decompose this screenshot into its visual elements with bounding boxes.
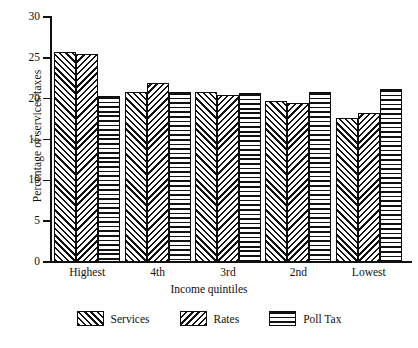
legend-label: Services xyxy=(111,313,150,325)
y-axis-tick-label: 30 xyxy=(8,11,40,23)
legend-swatch xyxy=(77,311,104,326)
legend-label: Poll Tax xyxy=(303,313,341,325)
y-axis-tick xyxy=(43,16,50,18)
bar-group xyxy=(195,17,261,262)
bar xyxy=(195,92,217,262)
y-axis-tick-label: 15 xyxy=(8,134,40,146)
bar xyxy=(358,113,380,262)
y-axis-tick-label: 0 xyxy=(8,256,40,268)
bar xyxy=(125,92,147,262)
bar xyxy=(76,54,98,262)
bar xyxy=(147,83,169,262)
x-axis-title: Income quintiles xyxy=(0,283,418,295)
bar-group xyxy=(125,17,191,262)
x-axis-category-label: Lowest xyxy=(319,266,418,278)
bar xyxy=(336,118,358,262)
y-axis-tick xyxy=(43,180,50,182)
bar xyxy=(309,92,331,262)
bar-group xyxy=(54,17,120,262)
bar xyxy=(287,103,309,262)
bar xyxy=(98,96,120,262)
legend-item: Services xyxy=(77,311,150,326)
plot-area xyxy=(50,17,402,262)
chart-legend: ServicesRatesPoll Tax xyxy=(0,311,418,326)
bar-group xyxy=(336,17,402,262)
y-axis-tick-label: 25 xyxy=(8,52,40,64)
y-axis-tick xyxy=(43,57,50,59)
legend-swatch xyxy=(269,311,296,326)
y-axis-tick-label: 10 xyxy=(8,174,40,186)
y-axis-tick xyxy=(43,261,50,263)
y-axis-tick-label: 5 xyxy=(8,215,40,227)
y-axis-tick-label: 20 xyxy=(8,93,40,105)
bar xyxy=(54,52,76,262)
y-axis-tick xyxy=(43,98,50,100)
bar xyxy=(217,95,239,262)
bar-group xyxy=(265,17,331,262)
y-axis-tick xyxy=(43,139,50,141)
bar xyxy=(380,89,402,262)
bar xyxy=(265,101,287,262)
legend-label: Rates xyxy=(214,313,240,325)
bar xyxy=(239,93,261,262)
bar xyxy=(169,92,191,262)
y-axis-tick xyxy=(43,220,50,222)
legend-swatch xyxy=(180,311,207,326)
bar-chart: Percentage of services/taxes 05101520253… xyxy=(0,0,418,348)
legend-item: Poll Tax xyxy=(269,311,341,326)
legend-item: Rates xyxy=(180,311,240,326)
